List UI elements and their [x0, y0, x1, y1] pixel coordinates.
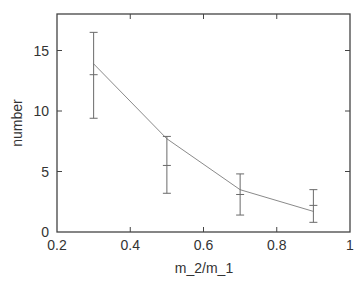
x-axis-label: m_2/m_1: [175, 260, 234, 276]
x-tick-label: 0.6: [194, 237, 214, 253]
y-tick-label: 5: [41, 164, 49, 180]
axis-ticks: [57, 14, 350, 232]
error-bars: [90, 32, 318, 222]
chart: 0.20.40.60.81051015 m_2/m_1 number: [0, 0, 361, 286]
x-tick-label: 1: [346, 237, 354, 253]
y-axis-label: number: [9, 99, 25, 147]
x-tick-label: 0.8: [267, 237, 287, 253]
y-tick-label: 10: [33, 103, 49, 119]
x-tick-label: 0.4: [121, 237, 141, 253]
y-tick-label: 15: [33, 43, 49, 59]
plot-border: [57, 14, 350, 232]
plot-frame: [57, 14, 350, 232]
y-tick-label: 0: [41, 224, 49, 240]
x-tick-label: 0.2: [47, 237, 67, 253]
data-polyline: [94, 64, 314, 212]
axis-tick-labels: 0.20.40.60.81051015: [33, 43, 354, 254]
data-line: [94, 64, 314, 212]
